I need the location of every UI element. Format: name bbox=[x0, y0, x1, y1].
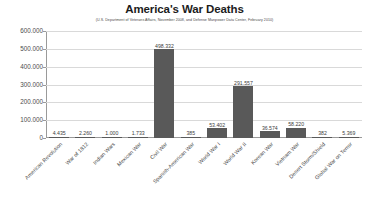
y-tick-label: 600.000 bbox=[1, 28, 43, 34]
bar-value-label: 291.557 bbox=[234, 80, 253, 86]
bar-value-label: 36.574 bbox=[262, 125, 278, 131]
y-tick-mark bbox=[43, 120, 46, 121]
y-axis-labels: 0100.000200.000300.000400.000500.000600.… bbox=[0, 31, 43, 138]
bar[interactable] bbox=[312, 137, 332, 138]
plot-area: 4.4352.2601.0001.733498.33238553.402291.… bbox=[46, 31, 362, 138]
y-tick-label: 300.000 bbox=[1, 82, 43, 88]
x-axis-labels: American RevolutionWar of 1812Indian War… bbox=[46, 139, 362, 211]
x-tick-label-slot: Korean War bbox=[257, 139, 283, 211]
chart-subtitle: (U.S. Department of Veterans Affairs, No… bbox=[0, 18, 369, 22]
bar[interactable] bbox=[49, 137, 69, 138]
bar[interactable] bbox=[260, 131, 280, 138]
x-tick-label-slot: Mexican War bbox=[125, 139, 151, 211]
x-tick-label-slot: Spanish-American War bbox=[178, 139, 204, 211]
bar-group[interactable]: 1.733 bbox=[125, 31, 151, 138]
y-tick-mark bbox=[43, 67, 46, 68]
chart-title: America's War Deaths bbox=[0, 3, 369, 15]
bar-group[interactable]: 382 bbox=[309, 31, 335, 138]
bar[interactable] bbox=[75, 137, 95, 138]
x-tick-label-slot: War of 1812 bbox=[72, 139, 98, 211]
bar-group[interactable]: 36.574 bbox=[257, 31, 283, 138]
bar-group[interactable]: 5.369 bbox=[336, 31, 362, 138]
bar-group[interactable]: 291.557 bbox=[230, 31, 256, 138]
bar-value-label: 2.260 bbox=[79, 130, 92, 136]
bar-group[interactable]: 2.260 bbox=[72, 31, 98, 138]
y-tick-mark bbox=[43, 49, 46, 50]
y-tick-label: 100.000 bbox=[1, 117, 43, 123]
bar-value-label: 58.220 bbox=[288, 121, 304, 127]
bar-value-label: 385 bbox=[186, 130, 195, 136]
bar-group[interactable]: 1.000 bbox=[99, 31, 125, 138]
x-tick-label: American Revolution bbox=[24, 141, 64, 181]
y-tick-mark bbox=[43, 102, 46, 103]
bar[interactable] bbox=[181, 137, 201, 138]
y-tick-label: 500.000 bbox=[1, 46, 43, 52]
bar-value-label: 5.369 bbox=[342, 130, 355, 136]
y-tick-label: 0 bbox=[1, 135, 43, 141]
y-tick-label: 400.000 bbox=[1, 64, 43, 70]
bar-value-label: 1.000 bbox=[105, 130, 118, 136]
x-tick-label-slot: American Revolution bbox=[46, 139, 72, 211]
bar-value-label: 4.435 bbox=[53, 130, 66, 136]
y-tick-mark bbox=[43, 31, 46, 32]
x-tick-label: Civil War bbox=[149, 141, 168, 160]
bar-value-label: 382 bbox=[318, 130, 327, 136]
bar[interactable] bbox=[128, 137, 148, 138]
bar-value-label: 498.332 bbox=[155, 43, 174, 49]
x-tick-label-slot: World War II bbox=[230, 139, 256, 211]
bar-group[interactable]: 53.402 bbox=[204, 31, 230, 138]
x-tick-label-slot: Indian Wars bbox=[99, 139, 125, 211]
bar[interactable] bbox=[339, 137, 359, 138]
bar[interactable] bbox=[286, 128, 306, 138]
bar-group[interactable]: 498.332 bbox=[151, 31, 177, 138]
bars-layer: 4.4352.2601.0001.733498.33238553.402291.… bbox=[46, 31, 362, 138]
bar-group[interactable]: 58.220 bbox=[283, 31, 309, 138]
bar[interactable] bbox=[207, 128, 227, 138]
bar-group[interactable]: 4.435 bbox=[46, 31, 72, 138]
x-tick-label-slot: Global War on Terror bbox=[336, 139, 362, 211]
x-tick-label-slot: World War I bbox=[204, 139, 230, 211]
bar[interactable] bbox=[154, 49, 174, 138]
bar[interactable] bbox=[102, 137, 122, 138]
bar-group[interactable]: 385 bbox=[178, 31, 204, 138]
bar-value-label: 53.402 bbox=[209, 122, 225, 128]
bar-value-label: 1.733 bbox=[132, 130, 145, 136]
y-tick-mark bbox=[43, 85, 46, 86]
y-tick-label: 200.000 bbox=[1, 99, 43, 105]
bar[interactable] bbox=[233, 86, 253, 138]
war-deaths-bar-chart: America's War Deaths (U.S. Department of… bbox=[0, 0, 369, 211]
